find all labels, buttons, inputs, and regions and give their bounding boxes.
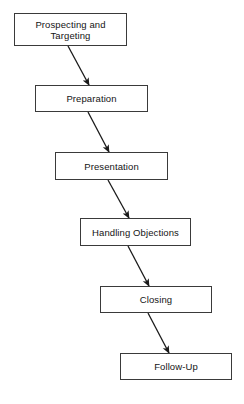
node-presentation[interactable]: Presentation — [55, 152, 168, 180]
arrow-presentation-to-handling-objections — [108, 180, 129, 218]
flow-connectors-layer — [0, 0, 244, 404]
arrow-prospecting-and-targeting-to-preparation — [68, 46, 89, 85]
node-label: Presentation — [81, 161, 142, 172]
node-handling-objections[interactable]: Handling Objections — [80, 218, 191, 246]
flowchart-diagram: Prospecting and Targeting Preparation Pr… — [0, 0, 244, 404]
arrow-preparation-to-presentation — [88, 112, 109, 152]
arrow-handling-objections-to-closing — [128, 246, 149, 286]
arrow-closing-to-follow-up — [148, 313, 169, 353]
node-closing[interactable]: Closing — [100, 286, 212, 313]
node-preparation[interactable]: Preparation — [35, 85, 148, 112]
node-label: Follow-Up — [151, 361, 201, 372]
node-label: Handling Objections — [89, 227, 182, 238]
node-label: Prospecting and Targeting — [32, 19, 108, 41]
node-label: Preparation — [63, 93, 119, 104]
node-prospecting-and-targeting[interactable]: Prospecting and Targeting — [14, 13, 127, 46]
node-label: Closing — [137, 294, 175, 305]
node-follow-up[interactable]: Follow-Up — [120, 353, 232, 380]
